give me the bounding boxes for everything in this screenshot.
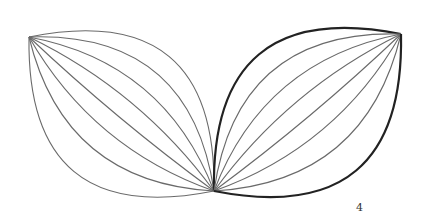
right-leaf-arc bbox=[214, 34, 401, 197]
left-leaf-arc bbox=[29, 37, 214, 191]
figure-label: 4 bbox=[356, 201, 363, 214]
left-leaf bbox=[29, 31, 214, 197]
leaf-arc-diagram: 4 bbox=[0, 0, 432, 224]
right-leaf-arc bbox=[214, 34, 401, 191]
left-leaf-arc bbox=[29, 37, 214, 197]
right-leaf bbox=[214, 28, 401, 197]
